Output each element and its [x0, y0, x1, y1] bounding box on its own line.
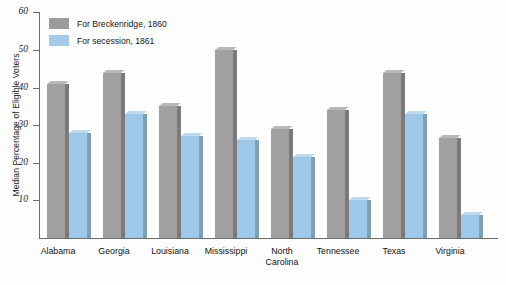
bar-front-face	[159, 106, 177, 238]
y-tick-50	[33, 50, 39, 51]
legend-item-secession: For secession, 1861	[49, 35, 167, 46]
y-tick-label-10: 10	[2, 194, 28, 204]
bar-breckenridge	[439, 138, 457, 238]
legend-label-secession: For secession, 1861	[77, 36, 154, 46]
bar-side-face	[143, 114, 147, 238]
bar-front-face	[293, 157, 311, 238]
bar-front-face	[327, 110, 345, 238]
bar-front-face	[103, 73, 121, 238]
legend-swatch-gray	[49, 18, 69, 29]
bar-breckenridge	[383, 73, 401, 238]
bar-breckenridge	[159, 106, 177, 238]
y-tick-label-20: 20	[2, 157, 28, 167]
bar-chart: Median Percentage of Eligible Voters 102…	[0, 0, 506, 285]
x-label-virginia: Virginia	[405, 246, 495, 257]
bar-front-face	[237, 140, 255, 238]
bar-side-face	[423, 114, 427, 238]
bar-secession	[349, 200, 367, 238]
y-axis-line	[39, 12, 40, 239]
bar-secession	[237, 140, 255, 238]
bar-side-face	[367, 200, 371, 238]
bar-front-face	[125, 114, 143, 238]
bar-front-face	[439, 138, 457, 238]
legend-item-breckenridge: For Breckenridge, 1860	[49, 18, 167, 29]
y-tick-20	[33, 163, 39, 164]
bar-side-face	[479, 215, 483, 238]
bar-front-face	[215, 50, 233, 238]
bar-front-face	[383, 73, 401, 238]
bar-breckenridge	[327, 110, 345, 238]
y-tick-label-60: 60	[2, 6, 28, 16]
bar-side-face	[199, 136, 203, 238]
legend-label-breckenridge: For Breckenridge, 1860	[77, 19, 167, 29]
y-tick-label-40: 40	[2, 82, 28, 92]
y-tick-label-30: 30	[2, 119, 28, 129]
bar-breckenridge	[215, 50, 233, 238]
y-tick-60	[33, 12, 39, 13]
bar-breckenridge	[103, 73, 121, 238]
bar-front-face	[405, 114, 423, 238]
bar-secession	[461, 215, 479, 238]
legend-swatch-blue	[49, 35, 69, 46]
y-tick-30	[33, 125, 39, 126]
bar-side-face	[311, 157, 315, 238]
bar-secession	[181, 136, 199, 238]
y-tick-label-50: 50	[2, 44, 28, 54]
bar-secession	[69, 133, 87, 238]
bar-side-face	[255, 140, 259, 238]
bar-front-face	[47, 84, 65, 238]
bar-secession	[405, 114, 423, 238]
bar-side-face	[87, 133, 91, 238]
bar-front-face	[69, 133, 87, 238]
bar-secession	[125, 114, 143, 238]
y-tick-40	[33, 88, 39, 89]
x-axis-line	[39, 238, 498, 239]
bar-front-face	[349, 200, 367, 238]
bar-breckenridge	[271, 129, 289, 238]
bar-breckenridge	[47, 84, 65, 238]
bar-front-face	[461, 215, 479, 238]
bar-secession	[293, 157, 311, 238]
bar-front-face	[181, 136, 199, 238]
y-tick-10	[33, 200, 39, 201]
chart-legend: For Breckenridge, 1860 For secession, 18…	[49, 18, 167, 52]
bar-front-face	[271, 129, 289, 238]
